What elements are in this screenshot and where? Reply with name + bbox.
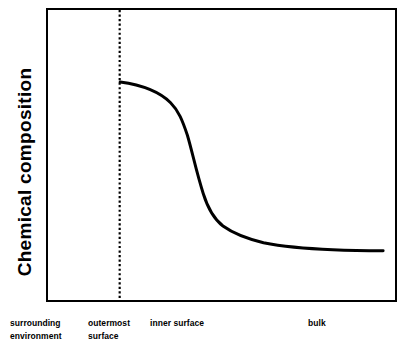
x-axis-label-surrounding-line1: surrounding [10,318,61,328]
x-axis-label-surrounding-environment: surrounding environment [10,317,62,342]
plot-area [46,8,397,302]
x-axis-label-outermost-line1: outermost [88,318,130,328]
x-axis-label-bulk: bulk [308,317,326,330]
chart-figure: Chemical composition surrounding environ… [0,0,408,355]
plot-svg [48,10,395,300]
y-axis-title: Chemical composition [15,42,34,302]
x-axis-label-outermost-line2: surface [88,330,130,343]
x-axis-label-bulk-line1: bulk [308,318,326,328]
x-axis-label-surrounding-line2: environment [10,330,62,343]
x-axis-label-inner-line1: inner surface [150,318,204,328]
composition-profile-curve [120,82,383,251]
x-axis-label-inner-surface: inner surface [150,317,204,330]
x-axis-label-outermost-surface: outermost surface [88,317,130,342]
